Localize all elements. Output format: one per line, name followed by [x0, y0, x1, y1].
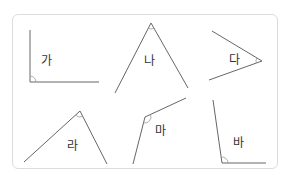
angle-arc	[30, 76, 36, 82]
angle-label-ga: 가	[41, 55, 52, 67]
angle-label-na: 나	[144, 55, 155, 67]
angle-label-ra: 라	[67, 140, 78, 152]
angle-label-ma: 마	[155, 125, 166, 137]
angle-figures	[0, 0, 291, 183]
angle-arc	[256, 58, 257, 63]
angle-label-da: 다	[229, 54, 240, 66]
angle-ba	[213, 100, 266, 163]
angle-ra	[24, 111, 107, 164]
angle-label-ba: 바	[233, 137, 244, 149]
angle-arc	[148, 28, 154, 29]
